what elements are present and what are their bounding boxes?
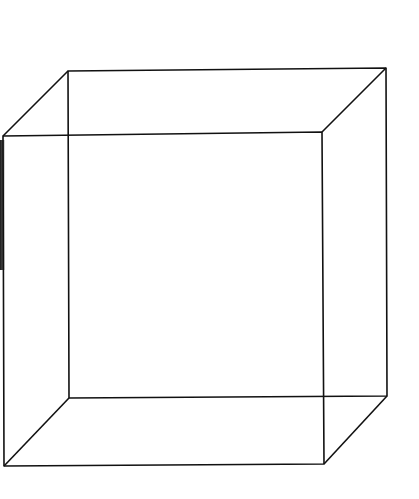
depth-edge-br — [324, 396, 387, 464]
depth-edge-tl — [3, 71, 68, 136]
depth-edges — [3, 68, 387, 466]
depth-edge-tr — [322, 68, 386, 132]
back-square — [68, 68, 387, 398]
depth-edge-bl — [4, 398, 69, 466]
cube-diagram — [0, 0, 419, 499]
back-face — [68, 68, 387, 398]
